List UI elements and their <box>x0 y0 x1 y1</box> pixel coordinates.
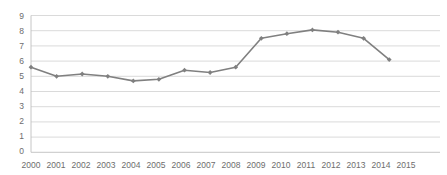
series-markers <box>29 27 392 83</box>
line-chart: 9 8 7 6 5 4 3 2 1 0 2000 2001 2002 2003 … <box>0 0 447 175</box>
plot-area <box>0 0 447 175</box>
gridlines-horizontal <box>31 16 440 138</box>
chart-screenshot: 9 8 7 6 5 4 3 2 1 0 2000 2001 2002 2003 … <box>0 0 447 175</box>
